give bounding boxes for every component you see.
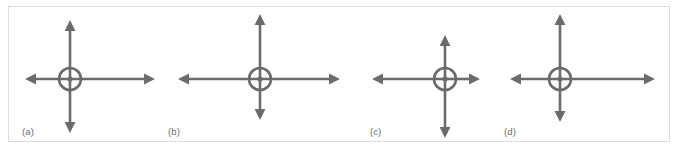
arrow-head-left bbox=[510, 74, 521, 85]
arrow-down bbox=[65, 79, 76, 133]
arrow-right bbox=[445, 74, 480, 85]
arrow-head-left bbox=[372, 74, 383, 85]
vector-panel-c bbox=[372, 35, 480, 138]
arrow-right bbox=[560, 74, 655, 85]
panel-label-c: (c) bbox=[370, 126, 381, 137]
panel-label-a: (a) bbox=[22, 126, 34, 137]
hub-center-dot bbox=[557, 76, 562, 81]
figure-root: (a)(b)(c)(d) bbox=[0, 0, 680, 151]
arrow-head-down bbox=[255, 109, 266, 120]
hub-center-dot bbox=[442, 76, 447, 81]
vector-panel-b bbox=[178, 14, 340, 120]
arrow-head-right bbox=[469, 74, 480, 85]
panel-label-b: (b) bbox=[168, 126, 180, 137]
arrow-down bbox=[440, 79, 451, 138]
vector-panel-a bbox=[25, 20, 155, 133]
arrow-head-down bbox=[440, 127, 451, 138]
arrow-down bbox=[555, 79, 566, 122]
arrow-head-left bbox=[178, 74, 189, 85]
arrow-up bbox=[65, 20, 76, 79]
arrow-left bbox=[25, 74, 70, 85]
vector-diagram-canvas bbox=[0, 0, 680, 151]
arrow-head-up bbox=[440, 35, 451, 46]
hub-center-dot bbox=[257, 76, 262, 81]
hub-center-dot bbox=[67, 76, 72, 81]
arrow-head-right bbox=[644, 74, 655, 85]
arrow-head-down bbox=[65, 122, 76, 133]
arrow-left bbox=[510, 74, 560, 85]
arrow-head-up bbox=[555, 14, 566, 25]
arrow-head-right bbox=[144, 74, 155, 85]
arrow-up bbox=[440, 35, 451, 79]
vector-panel-d bbox=[510, 14, 655, 122]
arrow-left bbox=[178, 74, 260, 85]
arrow-down bbox=[255, 79, 266, 120]
panel-label-d: (d) bbox=[504, 126, 516, 137]
arrow-head-up bbox=[255, 14, 266, 25]
arrow-head-down bbox=[555, 111, 566, 122]
arrow-right bbox=[70, 74, 155, 85]
arrow-head-right bbox=[329, 74, 340, 85]
arrow-head-up bbox=[65, 20, 76, 31]
arrow-head-left bbox=[25, 74, 36, 85]
